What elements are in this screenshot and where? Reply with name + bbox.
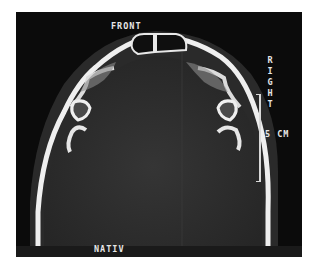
scale-label: 5 CM (265, 130, 289, 139)
scale-bar (259, 94, 261, 182)
orientation-letter: H (265, 88, 275, 99)
series-label-bar (16, 246, 302, 257)
orientation-letter: R (265, 55, 275, 66)
scale-bar-cap-bottom (256, 181, 261, 182)
orientation-letter: T (265, 99, 275, 110)
orientation-label-front: FRONT (111, 22, 142, 31)
orientation-label-right: R I G H T (265, 55, 275, 110)
ct-scan-frame: FRONT R I G H T 5 CM NATIV (16, 12, 302, 257)
scale-bar-cap-top (256, 94, 261, 95)
orientation-letter: I (265, 66, 275, 77)
orientation-letter: G (265, 77, 275, 88)
series-label: NATIV (94, 245, 125, 254)
